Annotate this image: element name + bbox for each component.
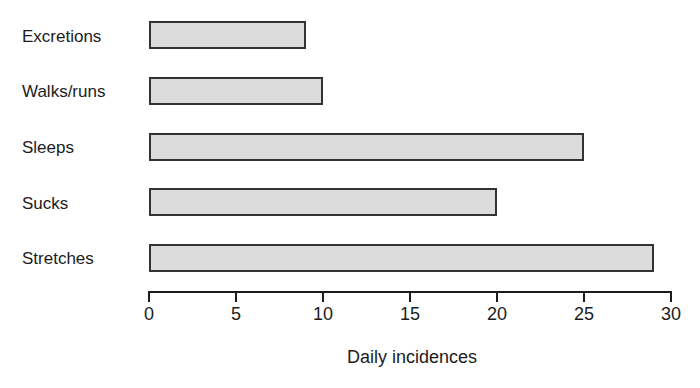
x-axis-tick-0 [148,291,150,302]
x-axis-tick-label-30: 30 [651,305,691,323]
x-axis-tick-label-20: 20 [477,305,517,323]
x-axis-tick-label-15: 15 [390,305,430,323]
x-axis-tick-5 [235,291,237,302]
x-axis-tick-10 [322,291,324,302]
category-label-walks-runs: Walks/runs [22,83,142,100]
x-axis-tick-label-5: 5 [216,305,256,323]
category-label-stretches: Stretches [22,250,142,267]
category-label-sucks: Sucks [22,195,142,212]
bar-chart: Excretions Walks/runs Sleeps Sucks Stret… [0,0,700,388]
bar-sucks [149,188,497,216]
x-axis-tick-label-25: 25 [564,305,604,323]
bar-excretions [149,21,306,49]
bar-walks-runs [149,77,323,105]
bar-sleeps [149,133,584,161]
bar-stretches [149,244,654,272]
x-axis-tick-30 [670,291,672,302]
x-axis-tick-25 [583,291,585,302]
x-axis-title: Daily incidences [0,348,700,366]
x-axis-tick-label-10: 10 [303,305,343,323]
x-axis-tick-20 [496,291,498,302]
x-axis-tick-15 [409,291,411,302]
category-label-excretions: Excretions [22,28,142,45]
category-label-sleeps: Sleeps [22,139,142,156]
x-axis-tick-label-0: 0 [129,305,169,323]
